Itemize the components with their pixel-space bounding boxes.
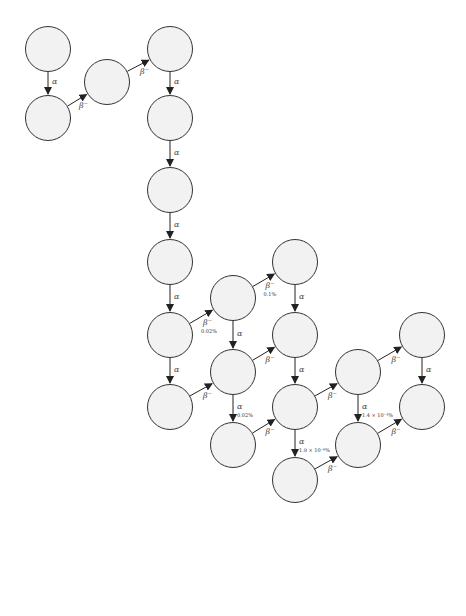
alpha-decay-label: α <box>174 365 179 374</box>
isotope-label <box>148 393 192 412</box>
beta-decay-label: β⁻ <box>79 101 88 110</box>
nuclide-node-rn222 <box>147 239 193 285</box>
beta-decay-label: β⁻ <box>266 281 275 290</box>
isotope-label <box>336 358 380 377</box>
nuclide-node-th234 <box>25 95 71 141</box>
nuclide-node-u234 <box>147 26 193 72</box>
alpha-decay-label: α <box>174 77 179 86</box>
isotope-label <box>273 393 317 412</box>
beta-decay-label: β⁻ <box>328 464 337 473</box>
alpha-decay-label: α <box>237 329 242 338</box>
alpha-decay-label: α <box>299 365 304 374</box>
nuclide-node-pb214 <box>147 384 193 430</box>
nuclide-node-ra226 <box>147 167 193 213</box>
alpha-decay-label: α <box>174 292 179 301</box>
isotope-label <box>273 248 317 267</box>
branch-ratio: 0.02% <box>201 328 217 334</box>
nuclide-node-at218 <box>210 275 256 321</box>
nuclide-node-rn218 <box>272 239 318 285</box>
isotope-label <box>336 431 380 450</box>
isotope-label <box>400 393 444 412</box>
nuclide-node-po210 <box>399 312 445 358</box>
nuclide-node-tl206 <box>335 422 381 468</box>
nuclide-node-tl210 <box>210 422 256 468</box>
nuclide-node-po218 <box>147 312 193 358</box>
isotope-label <box>273 321 317 340</box>
isotope-label <box>211 358 255 377</box>
isotope-label <box>85 68 129 87</box>
branch-ratio: 0.02% <box>237 412 253 418</box>
nuclide-node-bi214 <box>210 349 256 395</box>
nuclide-node-hg206 <box>272 457 318 503</box>
nuclide-node-bi210 <box>335 349 381 395</box>
nuclide-node-pb210 <box>272 384 318 430</box>
isotope-label <box>148 35 192 54</box>
alpha-decay-label: α <box>237 402 242 411</box>
nuclide-node-th230 <box>147 95 193 141</box>
decay-chain-diagram: αβ⁻β⁻αααααβ⁻0.02%αβ⁻0.1%αβ⁻β⁻α0.02%αβ⁻β⁻… <box>0 0 466 616</box>
isotope-label <box>148 248 192 267</box>
alpha-decay-label: α <box>174 148 179 157</box>
isotope-label <box>211 284 255 303</box>
isotope-label <box>26 35 70 54</box>
alpha-decay-label: α <box>299 292 304 301</box>
isotope-label <box>400 321 444 340</box>
nuclide-node-pb206 <box>399 384 445 430</box>
alpha-decay-label: α <box>362 402 367 411</box>
beta-decay-label: β⁻ <box>328 391 337 400</box>
alpha-decay-label: α <box>52 77 57 86</box>
beta-decay-label: β⁻ <box>266 355 275 364</box>
beta-decay-label: β⁻ <box>140 67 149 76</box>
branch-ratio: 1.9 × 10⁻⁶% <box>299 447 330 453</box>
beta-decay-label: β⁻ <box>203 391 212 400</box>
isotope-label <box>211 431 255 450</box>
beta-decay-label: β⁻ <box>203 318 212 327</box>
beta-decay-label: β⁻ <box>392 427 401 436</box>
isotope-label <box>148 321 192 340</box>
alpha-decay-label: α <box>299 437 304 446</box>
isotope-label <box>273 466 317 485</box>
alpha-decay-label: α <box>426 365 431 374</box>
nuclide-node-po214 <box>272 312 318 358</box>
isotope-label <box>26 104 70 123</box>
isotope-label <box>148 176 192 195</box>
alpha-decay-label: α <box>174 220 179 229</box>
beta-decay-label: β⁻ <box>392 355 401 364</box>
nuclide-node-u238 <box>25 26 71 72</box>
branch-ratio: 1.4 × 10⁻⁴% <box>362 412 393 418</box>
nuclide-node-pa234 <box>84 59 130 105</box>
beta-decay-label: β⁻ <box>266 427 275 436</box>
branch-ratio: 0.1% <box>264 291 277 297</box>
isotope-label <box>148 104 192 123</box>
